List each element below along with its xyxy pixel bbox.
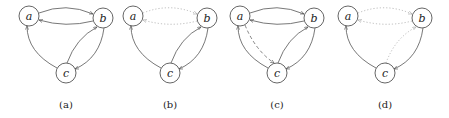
node-label-b: b: [310, 12, 317, 25]
panel-c: abc(c): [230, 6, 324, 110]
node-label-a: a: [237, 10, 244, 23]
panel-d: abc(d): [338, 6, 432, 110]
node-label-c: c: [167, 67, 173, 80]
node-label-b: b: [99, 12, 106, 25]
node-label-b: b: [418, 12, 425, 25]
edge-b-to-a: [250, 20, 304, 24]
edge-c-to-a: [346, 26, 376, 68]
panel-a: abc(a): [19, 6, 113, 110]
edge-a-to-b: [358, 8, 412, 14]
node-label-a: a: [26, 10, 33, 23]
edge-c-to-a: [131, 26, 161, 68]
edge-b-to-a: [143, 20, 197, 24]
edge-a-to-b: [39, 8, 93, 14]
edge-c-to-a: [27, 26, 57, 68]
node-label-b: b: [203, 12, 210, 25]
edge-b-to-c: [286, 28, 315, 69]
panel-caption: (a): [59, 99, 73, 110]
edge-c-to-b: [278, 27, 308, 63]
node-label-a: a: [345, 10, 352, 23]
graph-figure: abc(a)abc(b)abc(c)abc(d): [0, 0, 449, 118]
panel-b: abc(b): [123, 6, 217, 110]
edge-b-to-a: [358, 20, 412, 24]
node-label-a: a: [130, 10, 137, 23]
edge-c-to-b: [67, 27, 97, 63]
node-label-c: c: [382, 67, 388, 80]
edge-a-to-b: [143, 8, 197, 14]
panel-caption: (d): [378, 99, 392, 110]
edge-b-to-c: [394, 28, 423, 69]
edge-c-to-b: [171, 27, 201, 63]
edge-b-to-c: [75, 28, 104, 69]
edge-b-to-c: [179, 28, 208, 69]
edge-a-to-b: [250, 8, 304, 14]
panel-caption: (b): [163, 99, 177, 110]
edge-b-to-a: [39, 20, 93, 24]
node-label-c: c: [274, 67, 280, 80]
panel-caption: (c): [270, 99, 284, 110]
edge-c-to-b: [386, 27, 416, 63]
node-label-c: c: [63, 67, 69, 80]
edge-c-to-a: [238, 26, 268, 68]
edge-a-to-c: [245, 25, 274, 63]
